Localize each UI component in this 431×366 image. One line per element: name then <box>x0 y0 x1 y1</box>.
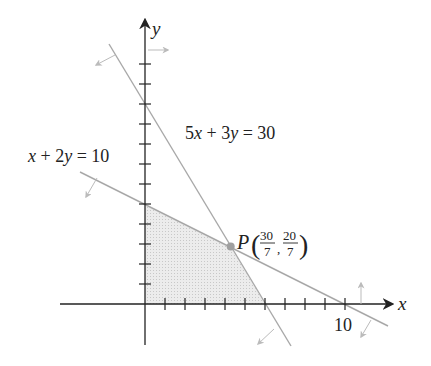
svg-text:P: P <box>236 231 249 253</box>
feasible-region <box>145 204 265 304</box>
svg-text:7: 7 <box>287 244 294 259</box>
label-5x-3y-30: 5x + 3y = 30 <box>185 123 275 143</box>
svg-text:7: 7 <box>264 244 271 259</box>
y-axis-label: y <box>150 18 161 39</box>
arrow-icon <box>96 55 115 65</box>
x-tick-label-10: 10 <box>334 315 352 335</box>
point-p <box>227 243 235 251</box>
arrow-icon <box>258 329 274 344</box>
graph-svg: y x 10 x + 2y = 10 5x + 3y = 30 P ( 30 7… <box>0 0 431 366</box>
svg-text:(: ( <box>251 229 260 260</box>
arrow-icon <box>361 320 371 337</box>
svg-text:,: , <box>277 241 280 256</box>
svg-text:30: 30 <box>260 228 273 243</box>
lp-graph: y x 10 x + 2y = 10 5x + 3y = 30 P ( 30 7… <box>0 0 431 366</box>
svg-text:): ) <box>299 229 308 260</box>
svg-text:20: 20 <box>283 228 296 243</box>
arrow-icon <box>86 178 97 197</box>
x-axis-label: x <box>397 293 407 314</box>
label-x-2y-10: x + 2y = 10 <box>27 146 109 166</box>
